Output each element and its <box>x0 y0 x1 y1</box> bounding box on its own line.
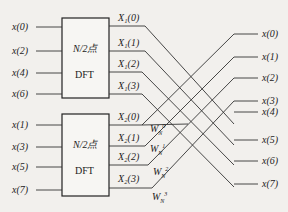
even-inputs: x(0) x(2) x(4) x(6) <box>11 21 62 100</box>
svg-text:WN3: WN3 <box>152 191 167 204</box>
block-output-label: X₁(0) <box>117 12 140 24</box>
input-label: x(4) <box>11 67 29 79</box>
block-output-label: X₁(2) <box>117 58 140 70</box>
input-label: x(0) <box>11 21 29 33</box>
bottom-dft-label-2: DFT <box>75 165 94 176</box>
input-label: x(3) <box>11 141 29 153</box>
output-label: x(5) <box>261 134 279 146</box>
top-dft-label-1: N/2点 <box>72 43 98 54</box>
block-output-label: X₁(3) <box>117 80 140 92</box>
butterfly-lines <box>142 26 234 188</box>
output-label: x(0) <box>261 28 279 40</box>
input-label: x(2) <box>11 45 29 57</box>
bottom-block-outputs: X₂(0) X₂(1) X₂(2) X₂(3) <box>109 111 152 188</box>
output-label: x(2) <box>261 72 279 84</box>
output-label: x(4) <box>261 106 279 118</box>
input-label: x(1) <box>11 119 29 131</box>
bottom-dft-block <box>62 114 109 196</box>
output-stubs <box>234 34 258 184</box>
input-label: x(6) <box>11 88 29 100</box>
top-block-outputs: X₁(0) X₁(1) X₁(2) X₁(3) <box>109 12 145 94</box>
svg-text:WN0: WN0 <box>150 123 165 136</box>
output-label: x(1) <box>261 51 279 63</box>
top-dft-block <box>62 18 109 98</box>
butterfly-diagram: N/2点 DFT N/2点 DFT x(0) x(2) x(4) x(6) x(… <box>0 0 288 212</box>
block-output-label: X₂(1) <box>117 132 140 144</box>
top-dft-label-2: DFT <box>75 69 94 80</box>
output-label: x(7) <box>261 178 279 190</box>
output-labels: x(0) x(1) x(2) x(3) x(4) x(5) x(6) x(7) <box>261 28 279 190</box>
input-label: x(7) <box>11 184 29 196</box>
odd-inputs: x(1) x(3) x(5) x(7) <box>11 119 62 196</box>
block-output-label: X₂(3) <box>117 173 140 185</box>
output-label: x(6) <box>261 155 279 167</box>
block-output-label: X₁(1) <box>117 37 140 49</box>
bottom-dft-label-1: N/2点 <box>72 139 98 150</box>
input-label: x(5) <box>11 161 29 173</box>
block-output-label: X₂(0) <box>117 111 140 123</box>
twiddle-factors: WN0 WN1 WN2 WN3 <box>150 123 168 204</box>
block-output-label: X₂(2) <box>117 151 140 163</box>
